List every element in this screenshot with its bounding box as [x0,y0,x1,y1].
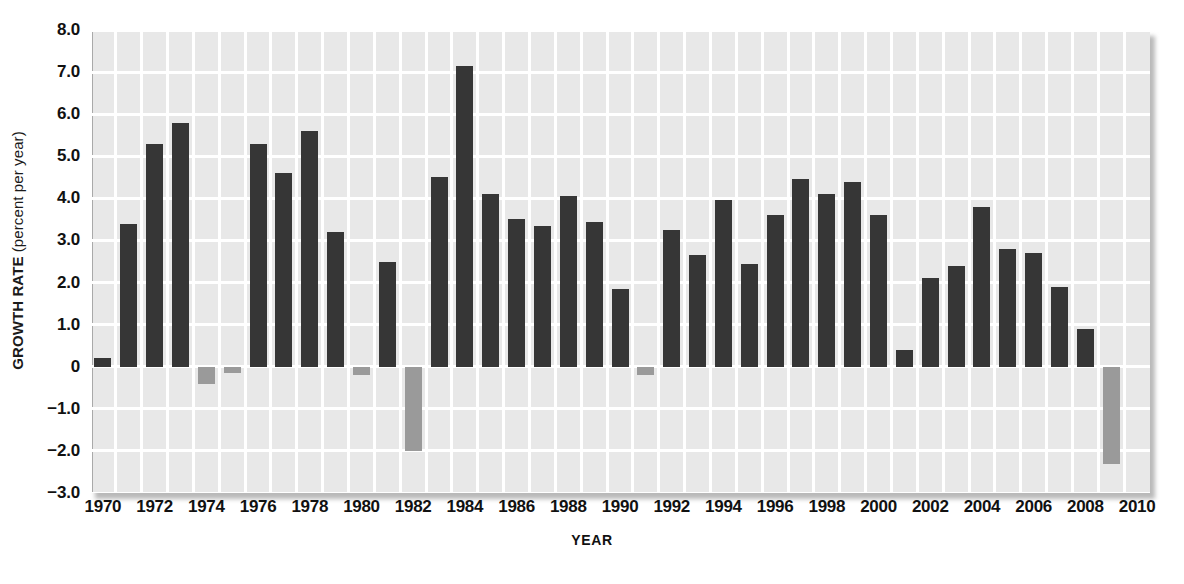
y-axis-tick-label: 1.0 [57,315,80,335]
x-axis-tick-label: 1984 [447,497,484,517]
y-axis-tick-label: 7.0 [57,62,80,82]
y-axis-tick-label: 5.0 [57,146,80,166]
bar [818,194,835,367]
bar [431,177,448,366]
gridline-vertical [425,30,428,493]
bar [715,200,732,366]
gridline-horizontal [90,71,1150,74]
y-axis-tick-label: −2.0 [47,441,80,461]
gridline-horizontal [90,492,1150,494]
bar [612,289,629,367]
gridline-vertical [993,30,996,493]
gridline-vertical [606,30,609,493]
gridline-vertical [269,30,272,493]
gridline-vertical [1123,30,1126,493]
bar [999,249,1016,367]
bar [198,367,215,384]
bar [1077,329,1094,367]
bar [353,367,370,375]
x-axis-tick-label: 1976 [240,497,277,517]
bar [482,194,499,367]
y-axis-title: GROWTH RATE (percent per year) [0,0,34,500]
gridline-vertical [192,30,195,493]
gridline-vertical [968,30,971,493]
bar [1103,367,1120,464]
y-axis-tick-label: −1.0 [47,399,80,419]
gridline-vertical [399,30,402,493]
gridline-horizontal [90,449,1150,452]
gridline-vertical [476,30,479,493]
x-axis-tick-label: 2004 [964,497,1001,517]
x-axis-tick-label: 2008 [1067,497,1104,517]
bar [534,226,551,367]
bar [689,255,706,367]
bar [327,232,344,367]
x-axis-tick-label: 1988 [550,497,587,517]
y-axis-tick-label: 8.0 [57,20,80,40]
x-axis-tick-label: 2002 [912,497,949,517]
x-axis-tick-label: 2000 [860,497,897,517]
x-axis-tick-label: 2006 [1015,497,1052,517]
gridline-vertical [90,30,92,493]
bar [120,224,137,367]
x-axis-tick-label: 1980 [343,497,380,517]
x-axis-tick-label: 1982 [395,497,432,517]
bar [637,367,654,375]
y-axis-title-strong: GROWTH RATE [9,256,26,369]
y-axis-title-light: (percent per year) [9,131,26,256]
x-axis-tick-label: 1972 [136,497,173,517]
x-axis-tick-label: 1974 [188,497,225,517]
gridline-vertical [218,30,221,493]
bar [896,350,913,367]
gridline-horizontal [90,30,1150,32]
gridline-vertical [709,30,712,493]
gridline-vertical [580,30,583,493]
gridline-vertical [450,30,453,493]
bar [456,66,473,367]
y-axis-tick-labels: 8.07.06.05.04.03.02.01.00−1.0−2.0−3.0 [34,0,86,520]
bar [224,367,241,373]
gridline-vertical [1019,30,1022,493]
x-axis-tick-label: 1986 [498,497,535,517]
gridline-vertical [554,30,557,493]
bar [250,144,267,367]
bar [405,367,422,451]
gridline-vertical [787,30,790,493]
gridline-horizontal [90,113,1150,116]
x-axis-tick-label: 1990 [602,497,639,517]
x-axis-tick-labels: 1970197219741976197819801982198419861988… [0,497,1184,531]
gridline-vertical [502,30,505,493]
x-axis-tick-label: 2010 [1119,497,1156,517]
gridline-vertical [812,30,815,493]
bar [379,262,396,367]
bar [301,131,318,367]
bar [973,207,990,367]
bar [922,278,939,366]
bar [172,123,189,367]
gridline-vertical [1071,30,1074,493]
bar [844,182,861,367]
gridline-vertical [528,30,531,493]
bar [870,215,887,367]
bar [741,264,758,367]
gridline-vertical [347,30,350,493]
gridline-vertical [1045,30,1048,493]
gridline-vertical [942,30,945,493]
gridline-vertical [244,30,247,493]
gridline-vertical [1097,30,1100,493]
gridline-vertical [683,30,686,493]
gridline-horizontal [90,407,1150,410]
chart-figure: GROWTH RATE (percent per year) 8.07.06.0… [0,0,1184,584]
x-axis-tick-label: 1998 [809,497,846,517]
plot-area [90,30,1150,493]
bar [663,230,680,367]
bar [1051,287,1068,367]
bar [94,358,111,366]
y-axis-tick-label: 3.0 [57,230,80,250]
gridline-vertical [864,30,867,493]
gridline-vertical [140,30,143,493]
gridline-vertical [373,30,376,493]
gridline-vertical [114,30,117,493]
y-axis-tick-label: 0 [71,357,80,377]
bar [767,215,784,367]
